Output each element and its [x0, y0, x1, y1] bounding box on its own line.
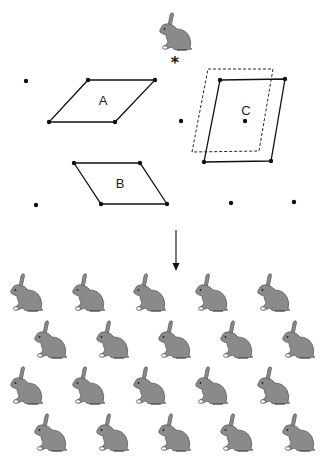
pattern-rabbit-icon — [283, 414, 315, 451]
lattice-point — [153, 78, 157, 82]
lattice-point — [218, 78, 222, 82]
lattice-point — [269, 159, 273, 163]
lattice-point — [99, 202, 103, 206]
pattern-rabbit-icon — [11, 367, 43, 404]
pattern-rabbit-icon — [35, 414, 67, 451]
lattice-point — [292, 200, 296, 204]
pattern-rabbit-icon — [97, 321, 129, 358]
pattern-rabbit-icon — [11, 274, 43, 311]
pattern-rabbit-icon — [73, 274, 105, 311]
crystal-pattern-group — [11, 274, 315, 451]
lattice-point — [86, 78, 90, 82]
unit-cell-dashed — [192, 69, 273, 152]
lattice-point — [24, 79, 28, 83]
arrow-group — [173, 230, 180, 271]
pattern-rabbit-icon — [134, 367, 166, 404]
cell-label-c: C — [241, 103, 250, 118]
pattern-rabbit-icon — [196, 274, 228, 311]
lattice-point — [165, 202, 169, 206]
lattice-point — [72, 161, 76, 165]
pattern-rabbit-icon — [258, 274, 290, 311]
down-arrow-icon — [173, 263, 180, 271]
lattice-point — [283, 77, 287, 81]
pattern-rabbit-icon — [221, 321, 253, 358]
lattice-diagram: * ABC — [0, 0, 326, 461]
lattice-point — [34, 203, 38, 207]
origin-star-icon: * — [171, 53, 180, 72]
pattern-rabbit-icon — [134, 274, 166, 311]
pattern-rabbit-icon — [159, 414, 191, 451]
pattern-rabbit-icon — [97, 414, 129, 451]
pattern-rabbit-icon — [159, 321, 191, 358]
motif-rabbit-icon — [160, 13, 192, 50]
lattice-point — [113, 120, 117, 124]
cell-label-a: A — [99, 93, 108, 108]
cell-label-b: B — [116, 176, 125, 191]
lattice-point — [138, 161, 142, 165]
pattern-rabbit-icon — [196, 367, 228, 404]
lattice-point — [202, 160, 206, 164]
lattice-point — [229, 201, 233, 205]
pattern-rabbit-icon — [258, 367, 290, 404]
pattern-rabbit-icon — [35, 321, 67, 358]
unit-cells-group: ABC — [49, 69, 285, 204]
lattice-point — [179, 119, 183, 123]
pattern-rabbit-icon — [73, 367, 105, 404]
lattice-points-group — [24, 77, 296, 207]
lattice-point — [243, 119, 247, 123]
pattern-rabbit-icon — [283, 321, 315, 358]
motif-group: * — [160, 13, 192, 72]
lattice-point — [47, 120, 51, 124]
pattern-rabbit-icon — [221, 414, 253, 451]
